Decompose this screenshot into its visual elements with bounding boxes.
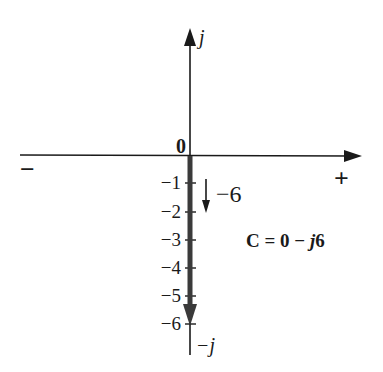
imag-negative-label: −j	[196, 334, 215, 357]
vector-c	[183, 156, 197, 326]
vector-magnitude-label: −6	[216, 181, 242, 207]
equation-lhs: C = 0 −	[246, 230, 310, 251]
tick-label: −5	[161, 285, 181, 306]
equation-label: C = 0 − j6	[246, 230, 325, 251]
tick-label: −3	[161, 229, 181, 250]
complex-plane-diagram: j −j − + 0 −1 −2 −3 −4 −5 −6 −6 C = 0 − …	[0, 0, 383, 372]
down-arrow-icon	[202, 200, 210, 213]
tick-label: −6	[161, 313, 181, 334]
tick-label: −1	[161, 172, 181, 193]
direction-indicator	[202, 179, 210, 213]
tick-label: −2	[161, 201, 181, 222]
equation-num: 6	[315, 230, 325, 251]
real-axis-arrowhead-icon	[344, 150, 362, 162]
real-negative-label: −	[20, 155, 35, 184]
imag-positive-label: j	[196, 26, 205, 49]
real-positive-label: +	[334, 164, 349, 193]
imaginary-axis-arrowhead-icon	[184, 28, 196, 46]
vector-arrowhead-icon	[183, 304, 197, 326]
origin-label: 0	[176, 135, 186, 157]
tick-labels: −1 −2 −3 −4 −5 −6	[161, 172, 182, 334]
tick-label: −4	[161, 257, 182, 278]
